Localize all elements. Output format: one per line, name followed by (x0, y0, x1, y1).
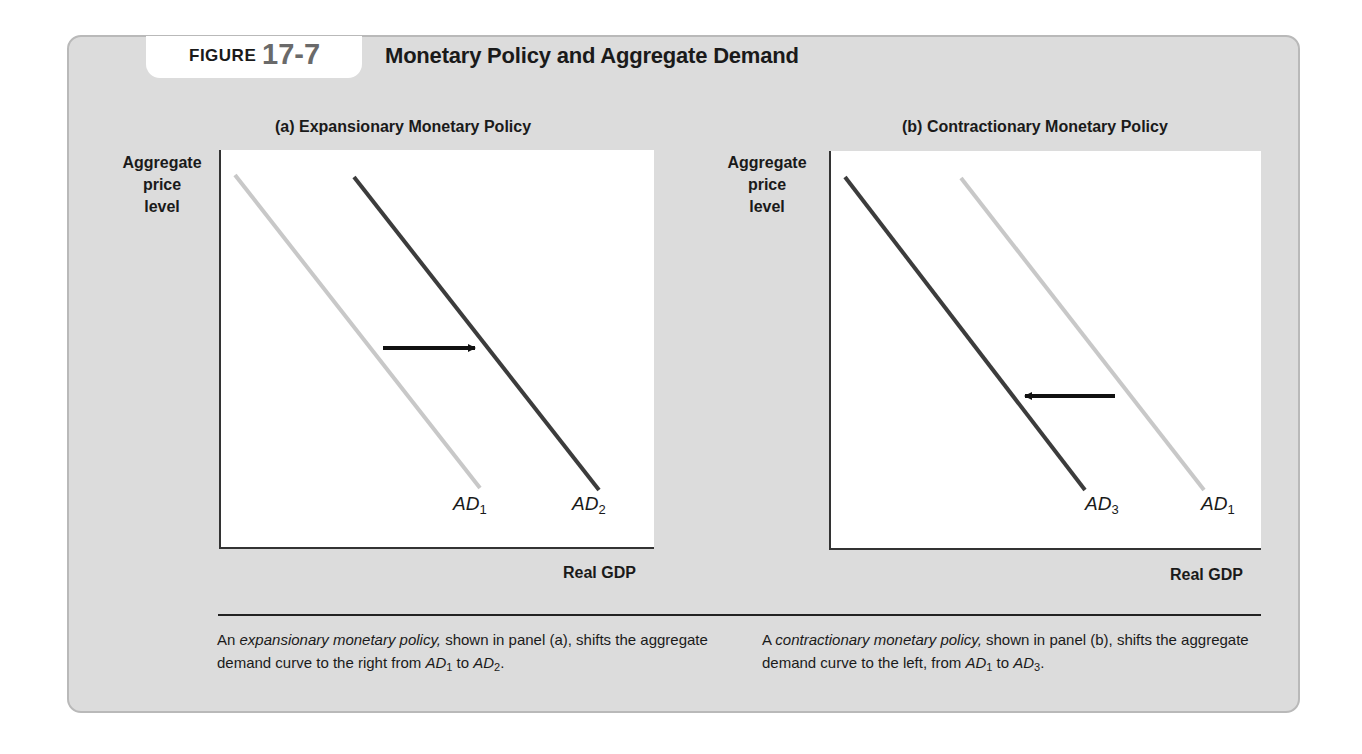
ad2-curve (354, 177, 599, 490)
ad3-curve (845, 177, 1085, 490)
label-sub: 1 (479, 502, 486, 517)
panel-b-svg (831, 151, 1261, 548)
panel-b-xlabel: Real GDP (1170, 566, 1243, 584)
label-sub: 3 (1111, 502, 1118, 517)
caption-curve: AD (473, 654, 494, 671)
label-base: AD (1201, 493, 1227, 514)
figure-title: Monetary Policy and Aggregate Demand (385, 43, 799, 69)
panel-a-curve-label-1: AD1 (453, 493, 487, 517)
ad1-curve (235, 175, 480, 488)
panel-a-ylabel: Aggregate price level (112, 152, 212, 218)
ylabel-line: price (717, 174, 817, 196)
caption-panel-a: An expansionary monetary policy, shown i… (217, 628, 717, 679)
caption-text: An (217, 631, 240, 648)
panel-b-plot (829, 151, 1261, 550)
caption-panel-b: A contractionary monetary policy, shown … (762, 628, 1267, 679)
panel-a-plot (219, 150, 654, 549)
caption-curve: AD (425, 654, 446, 671)
caption-curve: AD (1013, 654, 1034, 671)
ylabel-line: price (112, 174, 212, 196)
caption-curve: AD (965, 654, 986, 671)
caption-text: to (992, 654, 1013, 671)
caption-text: . (1040, 654, 1044, 671)
label-sub: 1 (1227, 502, 1234, 517)
caption-emphasis: contractionary monetary policy, (775, 631, 981, 648)
caption-text: A (762, 631, 775, 648)
caption-text: . (500, 654, 504, 671)
label-base: AD (572, 493, 598, 514)
label-base: AD (453, 493, 479, 514)
ylabel-line: level (112, 196, 212, 218)
panel-a-curve-label-2: AD2 (572, 493, 606, 517)
ad1-curve (961, 178, 1204, 490)
figure-number: 17-7 (262, 38, 320, 71)
panel-b-ylabel: Aggregate price level (717, 152, 817, 218)
panel-a-svg (221, 150, 654, 547)
caption-divider (218, 614, 1261, 616)
label-sub: 2 (598, 502, 605, 517)
ylabel-line: Aggregate (112, 152, 212, 174)
caption-emphasis: expansionary monetary policy, (240, 631, 442, 648)
figure-label: FIGURE (189, 46, 256, 66)
panel-a-xlabel: Real GDP (563, 564, 636, 582)
panel-b-title: (b) Contractionary Monetary Policy (902, 118, 1168, 136)
panel-b-curve-label-2: AD1 (1201, 493, 1235, 517)
ylabel-line: Aggregate (717, 152, 817, 174)
caption-text: to (452, 654, 473, 671)
ylabel-line: level (717, 196, 817, 218)
panel-a-title: (a) Expansionary Monetary Policy (275, 118, 531, 136)
label-base: AD (1085, 493, 1111, 514)
panel-b-curve-label-1: AD3 (1085, 493, 1119, 517)
